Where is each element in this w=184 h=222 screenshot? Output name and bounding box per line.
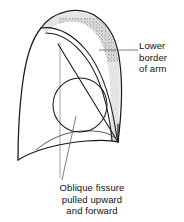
label-oblique-fissure-line-2: pulled upward: [60, 194, 125, 206]
label-oblique-fissure: Oblique fissure pulled upward and forwar…: [60, 182, 125, 217]
oblique-fissure-leader-line: [62, 116, 76, 180]
circle-marker: [53, 78, 107, 132]
label-oblique-fissure-line-3: and forward: [60, 205, 125, 217]
label-lower-border-line-3: of arm: [139, 63, 167, 75]
label-lower-border-line-1: Lower: [139, 40, 167, 52]
label-lower-border-line-2: border: [139, 52, 167, 64]
label-oblique-fissure-line-1: Oblique fissure: [60, 182, 125, 194]
stipple-patch: [52, 18, 122, 62]
figure-root: Lower border of arm Oblique fissure pull…: [0, 0, 184, 222]
label-lower-border-of-arm: Lower border of arm: [139, 40, 167, 75]
